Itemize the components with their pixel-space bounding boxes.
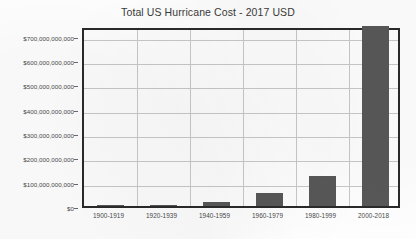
bar-2000-2018[interactable]	[362, 26, 390, 206]
hurricane-cost-bar-chart: Total US Hurricane Cost - 2017 USD $0$10…	[0, 0, 416, 239]
bar-1960-1979[interactable]	[256, 193, 284, 206]
x-tick-label: 1920-1939	[135, 212, 188, 219]
plot-inner	[84, 30, 398, 206]
y-tick-mark	[74, 62, 78, 63]
y-axis: $0$100,000,000,000$200,000,000,000$300,0…	[0, 28, 78, 208]
y-tick-mark	[74, 135, 78, 136]
y-tick-mark	[74, 159, 78, 160]
bar-1920-1939[interactable]	[150, 205, 178, 206]
plot-area	[82, 28, 400, 208]
y-tick-label: $400,000,000,000	[23, 107, 74, 114]
x-tick-label: 2000-2018	[347, 212, 400, 219]
y-tick-label: $600,000,000,000	[23, 59, 74, 66]
y-tick-label: $500,000,000,000	[23, 83, 74, 90]
y-tick-mark	[74, 111, 78, 112]
y-tick-mark	[74, 208, 78, 209]
y-tick-label: $0	[67, 205, 74, 212]
bar-1900-1919[interactable]	[97, 205, 125, 206]
y-tick-label: $100,000,000,000	[23, 180, 74, 187]
x-axis: 1900-19191920-19391940-19591960-19791980…	[82, 212, 400, 228]
y-tick-mark	[74, 184, 78, 185]
y-tick-mark	[74, 38, 78, 39]
x-tick-label: 1980-1999	[294, 212, 347, 219]
chart-title: Total US Hurricane Cost - 2017 USD	[0, 6, 416, 18]
y-tick-label: $200,000,000,000	[23, 156, 74, 163]
y-tick-label: $700,000,000,000	[23, 34, 74, 41]
bar-1940-1959[interactable]	[203, 202, 231, 206]
y-tick-mark	[74, 86, 78, 87]
x-tick-label: 1960-1979	[241, 212, 294, 219]
y-tick-label: $300,000,000,000	[23, 132, 74, 139]
x-tick-label: 1900-1919	[82, 212, 135, 219]
x-tick-label: 1940-1959	[188, 212, 241, 219]
bars-layer	[84, 30, 398, 206]
bar-1980-1999[interactable]	[309, 176, 337, 206]
